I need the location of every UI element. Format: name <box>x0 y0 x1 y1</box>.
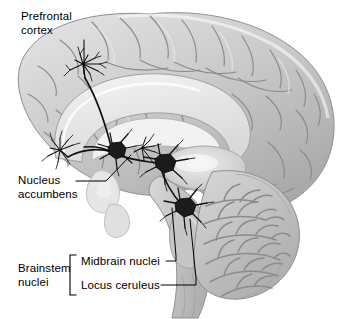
label-nucleus-accumbens: Nucleus accumbens <box>18 174 78 201</box>
label-prefrontal-cortex: Prefrontal cortex <box>21 10 72 37</box>
brainstem-nuclei-bracket <box>70 255 76 295</box>
label-brainstem-nuclei: Brainstem nuclei <box>18 262 71 289</box>
label-midbrain-nuclei: Midbrain nuclei <box>81 255 160 269</box>
label-locus-ceruleus: Locus ceruleus <box>81 279 160 293</box>
brain-anatomy-figure: Prefrontal cortex Nucleus accumbens Brai… <box>0 0 345 319</box>
